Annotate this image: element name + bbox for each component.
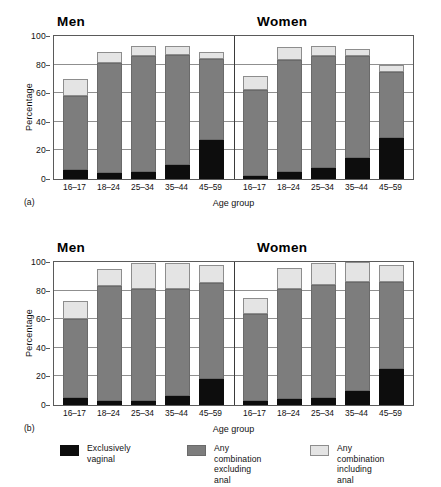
bar-women-16-17[interactable] [243,76,268,179]
y-tick-label-60: 60 [0,314,46,324]
bar-segment-light [277,47,302,60]
bar-segment-grey [243,90,268,176]
y-tick-mark-40 [46,348,50,349]
bar-men-35-44[interactable] [165,46,190,179]
x-tick-label-men-4: 45–59 [190,408,232,418]
y-tick-mark-80 [46,291,50,292]
bar-women-25-34[interactable] [311,263,336,405]
bar-segment-light [97,269,122,286]
bar-segment-grey [311,56,336,168]
panel-b-title-women: Women [257,240,308,255]
bar-segment-grey [97,286,122,400]
bar-women-18-24[interactable] [277,268,302,405]
bar-men-16-17[interactable] [63,79,88,179]
bar-men-18-24[interactable] [97,269,122,405]
chart-panel-b: Men Women 020406080100 Percentage 16–171… [0,240,441,453]
bar-segment-light [311,46,336,56]
bar-segment-grey [165,289,190,396]
panel-b-x-tick-labels: 16–1718–2425–3435–4445–5916–1718–2425–34… [53,408,414,422]
bar-men-45-59[interactable] [199,52,224,179]
legend-swatch-light [310,445,329,456]
panel-b-bars [54,262,413,405]
bar-men-25-34[interactable] [131,263,156,405]
y-tick-mark-20 [46,376,50,377]
bar-men-16-17[interactable] [63,301,88,405]
bar-segment-black [63,170,88,179]
bar-segment-grey [199,283,224,379]
bar-segment-light [277,268,302,289]
x-tick-label-women-4: 45–59 [370,408,412,418]
panel-b-title-men: Men [57,240,85,255]
bar-women-45-59[interactable] [379,265,404,405]
bar-segment-light [311,263,336,284]
bar-segment-grey [63,319,88,398]
bar-segment-grey [345,56,370,158]
bar-segment-light [63,301,88,320]
panel-b-plot-area [53,261,414,406]
bar-segment-light [379,265,404,282]
bar-segment-grey [243,314,268,401]
bar-segment-light [199,52,224,59]
bar-segment-black [131,401,156,405]
bar-men-45-59[interactable] [199,265,224,405]
bar-men-25-34[interactable] [131,46,156,179]
bar-segment-grey [379,72,404,138]
bar-segment-grey [345,282,370,391]
bar-segment-light [165,263,190,289]
bar-segment-grey [131,289,156,401]
panel-a-x-axis-label: Age group [53,198,414,208]
bar-women-25-34[interactable] [311,46,336,179]
bar-segment-light [131,263,156,289]
bar-segment-grey [165,55,190,165]
bar-segment-light [243,76,268,90]
panel-b-x-axis-label: Age group [53,424,414,434]
bar-segment-black [63,398,88,405]
bar-segment-grey [63,96,88,170]
bar-segment-grey [277,289,302,399]
bar-men-35-44[interactable] [165,263,190,405]
panel-a-title-men: Men [57,14,85,29]
panel-a-title-women: Women [257,14,308,29]
legend-swatch-black [60,445,79,456]
y-tick-label-80: 80 [0,286,46,296]
y-tick-label-40: 40 [0,343,46,353]
bar-segment-grey [97,63,122,173]
bar-segment-grey [379,282,404,369]
bar-segment-black [199,140,224,179]
bar-segment-grey [311,285,336,398]
bar-segment-black [199,379,224,405]
y-tick-label-60: 60 [0,88,46,98]
legend-label-black: Exclusively vaginal [87,443,131,464]
y-tick-label-20: 20 [0,145,46,155]
bar-women-35-44[interactable] [345,49,370,179]
bar-women-35-44[interactable] [345,262,370,405]
bar-women-16-17[interactable] [243,298,268,405]
panel-b-letter: (b) [24,423,35,433]
bar-segment-light [345,49,370,56]
bar-segment-grey [199,59,224,141]
bar-segment-light [199,265,224,284]
bar-segment-light [379,65,404,72]
chart-legend: Exclusively vaginalAny combination exclu… [0,444,441,476]
bar-segment-black [243,401,268,405]
panel-a-bars [54,36,413,179]
x-tick-label-men-4: 45–59 [190,182,232,192]
y-tick-mark-20 [46,150,50,151]
bar-segment-light [165,46,190,55]
bar-men-18-24[interactable] [97,52,122,179]
y-tick-label-100: 100 [0,31,46,41]
bar-segment-black [311,168,336,179]
bar-women-45-59[interactable] [379,65,404,179]
bar-segment-black [165,396,190,405]
legend-swatch-grey [187,445,206,456]
bar-segment-black [277,172,302,179]
y-tick-label-80: 80 [0,60,46,70]
y-tick-mark-40 [46,122,50,123]
bar-segment-black [379,369,404,405]
bar-segment-black [345,158,370,179]
panel-a-letter: (a) [24,197,35,207]
panel-b-y-axis-label: Percentage [24,309,34,357]
bar-segment-light [131,46,156,56]
bar-segment-black [97,173,122,179]
bar-women-18-24[interactable] [277,47,302,179]
